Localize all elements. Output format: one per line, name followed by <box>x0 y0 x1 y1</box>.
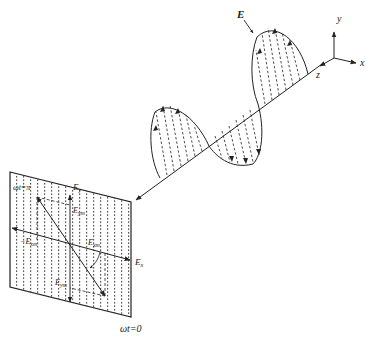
wave-lobes <box>151 28 308 178</box>
x-axis-label: x <box>359 57 365 68</box>
e-pointer-arrow <box>244 20 253 33</box>
phase-zero-label: ωt=0 <box>120 323 142 334</box>
z-axis-arrow <box>320 58 334 66</box>
propagation-axis <box>136 64 322 200</box>
ex-label: Ex <box>134 257 144 268</box>
coordinate-axes: y x z <box>315 13 365 80</box>
e-field-label: E <box>236 8 244 20</box>
wave-e-label: E <box>236 8 253 33</box>
ey-label: Ey <box>72 182 82 193</box>
z-axis-label: z <box>315 69 320 80</box>
y-axis-label: y <box>336 13 342 24</box>
em-wave-diagram: y x z E <box>0 0 373 345</box>
polarization-plane: Ey Eym −Exm Exm Eym Ex ωt=π <box>10 172 144 317</box>
x-axis-arrow <box>334 58 356 63</box>
phase-pi-label: ωt=π <box>13 183 31 192</box>
wave-lobe-1 <box>252 31 308 104</box>
